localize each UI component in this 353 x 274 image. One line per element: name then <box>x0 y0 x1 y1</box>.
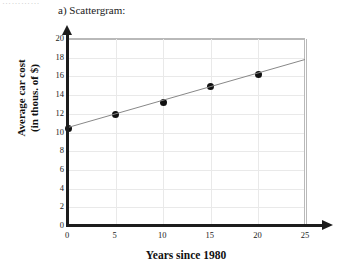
x-axis-title: Years since 1980 <box>67 249 305 261</box>
x-tick-label: 10 <box>152 231 172 240</box>
x-tick-label: 5 <box>105 231 125 240</box>
x-axis-tick-labels: 0510152025 <box>0 0 353 274</box>
x-tick-label: 0 <box>57 231 77 240</box>
x-tick-label: 20 <box>247 231 267 240</box>
y-axis-title-line2: (in thous. of $) <box>28 23 41 173</box>
y-axis-title-line1: Average car cost <box>15 59 27 136</box>
scattergram-chart: 02468101214161820 0510152025 Average car… <box>0 0 353 274</box>
y-axis-title: Average car cost (in thous. of $) <box>15 23 41 173</box>
x-tick-label: 15 <box>200 231 220 240</box>
x-tick-label: 25 <box>295 231 315 240</box>
